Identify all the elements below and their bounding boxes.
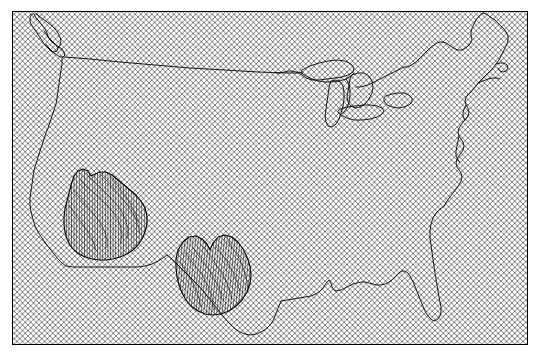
map-plot <box>0 0 542 356</box>
figure-canvas: Map of the contiguous United States with… <box>0 0 542 356</box>
